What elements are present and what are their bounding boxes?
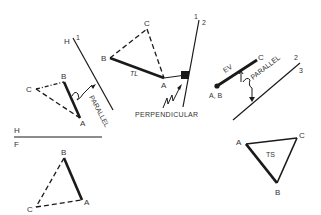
vertex-c: C <box>26 85 32 94</box>
folding-line-12: 1 2 <box>183 13 206 107</box>
horizontal-view-triangle: C B A PARALLEL <box>26 72 111 128</box>
label-1: 1 <box>76 34 80 41</box>
true-shape-label: TS <box>266 151 275 158</box>
folding-line-hf: H F <box>14 126 102 149</box>
parallel-arrow-icon <box>243 78 252 100</box>
vertex-a: A <box>80 119 86 128</box>
vertex-a: A <box>236 138 242 147</box>
label-2: 2 <box>294 54 298 61</box>
true-length-label: TL <box>130 70 138 77</box>
vertex-b: B <box>61 72 66 81</box>
label-h: H <box>64 37 70 46</box>
vertex-c: C <box>144 19 150 28</box>
vertex-a: A <box>84 198 90 207</box>
label-h: H <box>14 126 20 135</box>
vertex-c: C <box>258 53 264 62</box>
point-ab-icon <box>214 83 219 88</box>
vertex-b: B <box>275 188 280 197</box>
perpendicular-annotation: PERPENDICULAR <box>135 84 198 118</box>
parallel-label: PARALLEL <box>249 54 281 81</box>
edge-view-label: EV <box>222 63 234 74</box>
vertex-a: A <box>161 81 167 90</box>
vertex-c: C <box>299 131 305 140</box>
label-3: 3 <box>299 67 303 74</box>
point-ab-label: A, B <box>209 92 223 99</box>
label-1: 1 <box>194 13 198 20</box>
vertex-b: B <box>61 148 66 157</box>
label-f: F <box>14 140 19 149</box>
auxiliary-view-1-triangle: B C A TL <box>101 19 189 90</box>
perpendicular-label: PERPENDICULAR <box>135 111 198 118</box>
frontal-view-triangle: B A C <box>27 148 90 214</box>
descriptive-geometry-diagram: H 1 C B A PARALLEL H F B A C B C A TL <box>0 0 321 215</box>
vertex-b: B <box>101 54 106 63</box>
label-2: 2 <box>202 19 206 26</box>
perpendicular-arrow-icon <box>163 87 180 108</box>
auxiliary-view-2-edge: A, B C EV PARALLEL <box>209 53 281 102</box>
vertex-c: C <box>27 205 33 214</box>
auxiliary-view-3-true-shape: A C B TS <box>236 131 305 197</box>
